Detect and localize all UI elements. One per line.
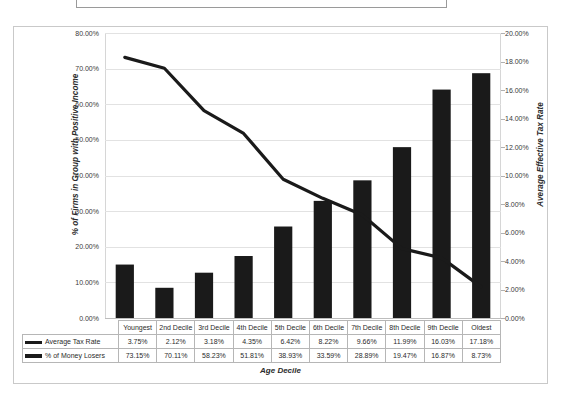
y-tick-label-right: 20.00% [505,30,529,37]
table-cell: 19.47% [386,349,424,363]
series-layer [105,33,501,318]
y-tick-label-right: 6.00% [505,229,525,236]
y-tick-mark-right [501,318,505,319]
table-col-header: 9th Decile [424,321,462,335]
table-cell: 8.73% [462,349,500,363]
y-tick-label-left: 20.00% [75,243,99,250]
table-cell: 9.66% [348,335,386,349]
data-table: Youngest2nd Decile3rd Decile4th Decile5t… [22,320,501,363]
y-tick-mark-right [501,204,505,205]
y-tick-label-right: 10.00% [505,172,529,179]
y-tick-label-right: 0.00% [505,315,525,322]
y-tick-label-left: 50.00% [75,136,99,143]
table-col-header: 2nd Decile [157,321,195,335]
legend-entry: % of Money Losers [23,349,119,363]
table-cell: 6.42% [271,335,309,349]
gridline [105,318,501,319]
y-tick-label-right: 4.00% [505,258,525,265]
table-cell: 58.23% [195,349,233,363]
y-tick-mark-right [501,33,505,34]
table-cell: 3.18% [195,335,233,349]
y-tick-label-right: 8.00% [505,201,525,208]
y-tick-label-left: 10.00% [75,279,99,286]
table-col-header: Youngest [119,321,157,335]
table-col-header: 6th Decile [309,321,347,335]
y-tick-label-right: 18.00% [505,58,529,65]
legend-swatch-line-icon [25,354,42,358]
table-row: Average Tax Rate3.75%2.12%3.18%4.35%6.42… [23,335,501,349]
bar-8th-decile [393,147,411,318]
y-tick-mark-right [501,90,505,91]
y-tick-label-left: 70.00% [75,65,99,72]
y-tick-label-left: 40.00% [75,172,99,179]
table-col-header: 4th Decile [233,321,271,335]
legend-swatch-bars-icon [25,341,42,344]
y-axis-right-title: Average Effective Tax Rate [536,40,545,270]
x-axis-title: Age Decile [0,366,561,375]
table-header-row: Youngest2nd Decile3rd Decile4th Decile5t… [23,321,501,335]
bar-7th-decile [353,180,371,318]
y-tick-mark-right [501,62,505,63]
table-cell: 38.93% [271,349,309,363]
bar-9th-decile [432,90,450,318]
table-body: Average Tax Rate3.75%2.12%3.18%4.35%6.42… [23,335,501,363]
bar-4th-decile [234,256,252,318]
table-col-header: 5th Decile [271,321,309,335]
y-tick-mark-right [501,176,505,177]
bar-6th-decile [314,201,332,318]
legend-label: % of Money Losers [45,352,105,359]
table-cell: 70.11% [157,349,195,363]
table-cell: 51.81% [233,349,271,363]
y-tick-mark-right [501,233,505,234]
y-tick-mark-right [501,119,505,120]
table-cell: 73.15% [119,349,157,363]
y-tick-label-right: 12.00% [505,144,529,151]
bar-2nd-decile [155,288,173,318]
table-col-header: 7th Decile [348,321,386,335]
bar-youngest [116,265,134,318]
y-axis-left-title: % of Firms in Group with Positive Income [71,40,80,270]
table-cell: 33.59% [309,349,347,363]
table-cell: 2.12% [157,335,195,349]
chart-title-box [76,0,447,8]
legend-entry: Average Tax Rate [23,335,119,349]
y-tick-mark-right [501,261,505,262]
table-cell: 17.18% [462,335,500,349]
line-money-losers [125,57,481,287]
plot-area [105,33,501,318]
y-tick-label-left: 80.00% [75,30,99,37]
table-col-header: 3rd Decile [195,321,233,335]
y-tick-mark-right [501,290,505,291]
y-tick-mark-right [501,147,505,148]
bar-3rd-decile [195,273,213,318]
table-cell: 4.35% [233,335,271,349]
table-cell: 28.89% [348,349,386,363]
table-row: % of Money Losers73.15%70.11%58.23%51.81… [23,349,501,363]
bar-5th-decile [274,227,292,318]
y-tick-label-left: 30.00% [75,208,99,215]
table-corner-cell [23,321,119,335]
y-tick-label-right: 2.00% [505,286,525,293]
table-col-header: Oldest [462,321,500,335]
legend-label: Average Tax Rate [45,338,100,345]
table-col-header: 8th Decile [386,321,424,335]
table-cell: 16.87% [424,349,462,363]
y-tick-label-right: 16.00% [505,87,529,94]
table-cell: 3.75% [119,335,157,349]
table-cell: 11.99% [386,335,424,349]
table-cell: 8.22% [309,335,347,349]
y-tick-label-left: 60.00% [75,101,99,108]
table-cell: 16.03% [424,335,462,349]
y-tick-label-right: 14.00% [505,115,529,122]
